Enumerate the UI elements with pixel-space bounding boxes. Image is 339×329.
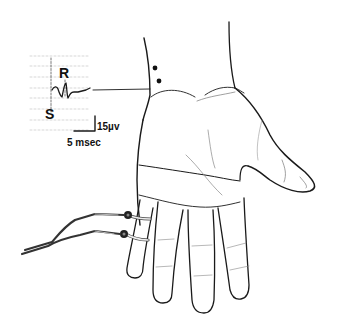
wrist-crease-left bbox=[151, 90, 195, 97]
thumb-nail bbox=[300, 177, 307, 188]
thenar-line bbox=[208, 130, 215, 168]
scale-bar bbox=[74, 116, 95, 131]
thenar-line-2 bbox=[257, 120, 262, 160]
scale-time-label: 5 msec bbox=[67, 137, 101, 148]
forearm-left-edge bbox=[143, 38, 150, 120]
leader-line bbox=[93, 89, 150, 90]
peak-label-r: R bbox=[59, 65, 69, 81]
thumb-inner-edge bbox=[240, 166, 248, 180]
figure-canvas: R S 15µv 5 msec bbox=[0, 0, 339, 329]
recording-electrode-2 bbox=[157, 79, 162, 84]
lead-wire-2 bbox=[22, 231, 120, 254]
scale-amplitude-label: 15µv bbox=[97, 121, 119, 132]
forearm-right-edge bbox=[229, 22, 235, 88]
wrist-crease-mid bbox=[197, 92, 235, 101]
index-finger bbox=[218, 198, 249, 299]
middle-finger bbox=[188, 210, 215, 313]
palm-crease-base bbox=[139, 195, 240, 207]
peak-label-s: S bbox=[45, 106, 54, 122]
thumb-crease bbox=[282, 160, 285, 182]
palm-crease-distal bbox=[139, 165, 240, 181]
evoked-potential-trace bbox=[52, 83, 90, 98]
palm-crease-proximal bbox=[186, 155, 222, 195]
thumb-outer-edge bbox=[235, 88, 315, 192]
hand-illustration bbox=[0, 0, 339, 329]
recording-electrode-1 bbox=[153, 66, 158, 71]
ring-finger bbox=[153, 202, 183, 303]
